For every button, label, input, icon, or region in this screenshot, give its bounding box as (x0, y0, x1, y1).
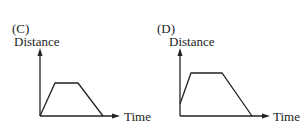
x-axis-arrow-icon (262, 114, 270, 119)
graph-d-x-axis (180, 114, 270, 119)
y-axis-arrow-icon (178, 48, 183, 56)
x-axis-arrow-icon (112, 114, 120, 119)
graph-d-line (180, 73, 252, 116)
graph-c-line (40, 83, 103, 116)
graph-c-x-axis (40, 114, 120, 119)
graph-d-y-axis (178, 48, 183, 116)
graph-c-y-axis (38, 48, 43, 116)
graph-c-plot (0, 0, 155, 131)
graph-c: (C) Distance Time (0, 0, 155, 131)
graph-d: (D) Distance Time (155, 0, 307, 131)
graph-d-plot (155, 0, 307, 131)
y-axis-arrow-icon (38, 48, 43, 56)
